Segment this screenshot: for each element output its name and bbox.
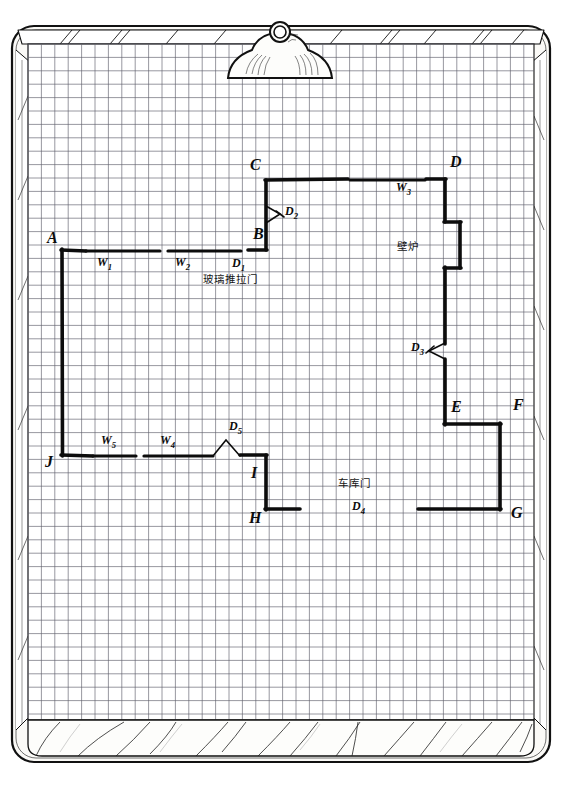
annotation-fireplace: 壁炉 (397, 240, 419, 252)
vertex-label-i: I (250, 464, 258, 481)
window-label-w4-subscript: 4 (170, 440, 176, 450)
vertex-label-j: J (44, 453, 54, 470)
annotation-glass-sliding-door: 玻璃推拉门 (203, 273, 258, 285)
window-label-w2-subscript: 2 (185, 262, 191, 272)
window-label-w1-subscript: 1 (108, 262, 112, 272)
vertex-label-a: A (46, 229, 58, 246)
vertex-label-e: E (450, 398, 462, 415)
window-label-w3-subscript: 3 (406, 187, 412, 197)
vertex-label-c: C (250, 156, 261, 173)
annotation-garage-door: 车库门 (338, 477, 371, 489)
board-wood-grain (28, 720, 534, 756)
floorplan-drawing: ABCDEFGHIJ W1W2W3W4W5 D1D2D3D4D5 玻璃推拉门壁炉… (0, 0, 562, 792)
door-label-d3-subscript: 3 (419, 347, 425, 357)
door-label-d5-subscript: 5 (238, 426, 243, 436)
vertex-label-b: B (252, 225, 264, 242)
graph-paper-sheet (28, 44, 534, 720)
door-label-d1-subscript: 1 (241, 263, 245, 273)
door-label-d2-subscript: 2 (293, 211, 299, 221)
door-label-d4-subscript: 4 (360, 506, 366, 516)
clipboard-floorplan-scene: ABCDEFGHIJ W1W2W3W4W5 D1D2D3D4D5 玻璃推拉门壁炉… (0, 0, 562, 792)
wall-left-A-J (62, 249, 63, 456)
vertex-label-g: G (511, 504, 523, 521)
window-label-w5-subscript: 5 (112, 440, 117, 450)
wall-A-stub (61, 250, 86, 251)
vertex-label-d: D (449, 153, 462, 170)
wall-J-stub (61, 455, 93, 456)
vertex-label-h: H (248, 509, 262, 526)
wall-top-C-D (265, 179, 348, 180)
vertex-label-f: F (512, 396, 524, 413)
